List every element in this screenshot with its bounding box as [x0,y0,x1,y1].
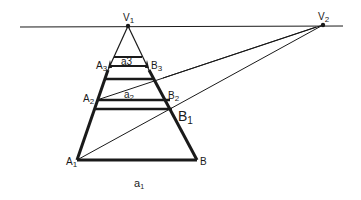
trapezoid-left-side [77,70,108,160]
label-v1: V1 [123,12,135,25]
label-seg-a3: a3 [121,56,133,67]
caption: a1 [134,177,144,190]
label-a2: A2 [83,93,95,106]
label-a3: A3 [96,60,108,73]
label-a1: A1 [66,156,78,169]
perspective-diagram: V1 V2 A3 B3 a3 A2 B2 a2 B1 A1 B a1 [0,0,361,200]
diagonal-a1-v2 [77,25,323,160]
label-b3: B3 [151,60,163,73]
label-b1: B1 [178,108,193,126]
label-b: B [200,156,207,167]
label-v2: V2 [318,11,330,24]
horizon-line [20,26,343,27]
